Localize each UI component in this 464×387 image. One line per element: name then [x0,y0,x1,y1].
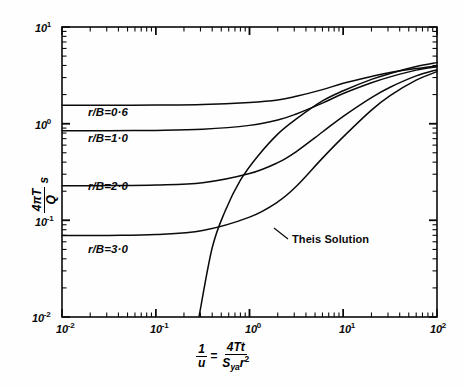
annotation-theis-solution: Theis Solution [292,233,369,245]
x-tick-label-4: 102 [430,321,446,335]
curve-label-rb-3-0: r/B=3·0 [88,243,128,255]
x-axis-storage-subscript: ya [230,362,239,372]
curve-r-b-0-6 [62,66,437,105]
theis-leader-line [274,228,288,239]
x-tick-label-3: 101 [339,321,355,335]
y-tick-label-1: 100 [35,117,51,131]
curve-theis-solution [199,63,437,317]
x-axis-lhs-denominator: u [196,357,207,370]
x-axis-label: 1 u = 4Tt Syar2 [196,341,251,372]
curve-label-rb-0-6: r/B=0·6 [88,106,128,118]
x-tick-label-1: 10-1 [150,321,169,335]
figure-container: 10-2 10-1 100 101 102 101 100 10-1 10-2 … [0,0,464,387]
y-axis-numerator: 4πT [31,187,45,214]
x-axis-lhs-numerator: 1 [196,343,207,357]
x-tick-label-0: 10-2 [56,321,75,335]
curve-label-rb-1-0: r/B=1·0 [88,132,128,144]
x-axis-rhs-numerator: 4Tt [225,341,247,355]
x-axis-rhs-fraction: 4Tt Syar2 [220,341,251,372]
x-axis-radius-exponent: 2 [245,354,250,364]
curve-r-b-2-0 [62,70,437,186]
y-axis-fraction: 4πT Q [31,187,57,214]
x-axis-rhs-denominator: Syar2 [220,355,251,372]
y-tick-label-0: 101 [35,20,51,34]
x-tick-label-2: 100 [245,321,261,335]
curve-r-b-3-0 [62,72,437,236]
x-axis-lhs-fraction: 1 u [196,343,207,369]
x-axis-equals-sign: = [210,349,217,363]
axis-ticks [62,27,437,317]
curve-label-rb-2-0: r/B=2·0 [88,180,128,192]
y-tick-label-3: 10-2 [32,310,51,324]
plot-frame [62,27,437,317]
y-axis-label: 4πT Q s [14,150,74,240]
y-axis-trailing-symbol: s [37,177,51,184]
y-axis-denominator: Q [45,193,58,206]
